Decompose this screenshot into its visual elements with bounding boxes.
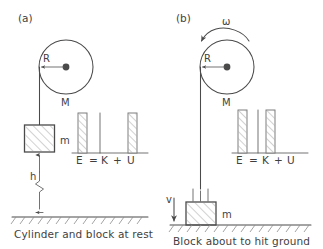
rotation-arrow-b: [202, 28, 250, 41]
energy-symbol-E-a: E: [76, 154, 83, 166]
panel-b: (b) ω R M: [166, 12, 311, 247]
energy-symbol-U-a: U: [127, 154, 135, 166]
energy-symbol-eq-a: =: [89, 154, 98, 166]
energy-symbol-eq-b: =: [249, 154, 258, 166]
pulley-mass-label-b: M: [222, 97, 231, 108]
physics-figure: (a) R M m h: [0, 0, 323, 249]
panel-a: (a) R M m h: [11, 12, 153, 240]
pulley-b: R M: [200, 40, 254, 108]
block-b: m: [186, 202, 232, 225]
panel-b-caption: Block about to hit ground: [173, 235, 310, 247]
rotation-label-b: ω: [222, 16, 230, 27]
height-label-a: h: [30, 171, 36, 182]
block-mass-label-b: m: [222, 209, 232, 220]
rotation-indicator-b: ω: [202, 16, 250, 41]
pulley-a: R M: [39, 40, 93, 108]
energy-symbol-K-b: K: [262, 154, 270, 166]
energy-symbol-K-a: K: [101, 154, 109, 166]
energy-chart-b: E = K + U: [232, 110, 308, 166]
energy-symbol-E-b: E: [236, 154, 243, 166]
block-hatch-b: [187, 203, 215, 224]
radius-label-b: R: [204, 53, 211, 64]
energy-symbol-U-b: U: [287, 154, 295, 166]
pulley-mass-label-a: M: [61, 97, 70, 108]
energy-bar-E-hatch-a: [79, 114, 87, 153]
ground-a: [11, 217, 148, 224]
panel-a-caption: Cylinder and block at rest: [14, 228, 153, 240]
ground-hatch-a: [11, 217, 142, 224]
block-a: m: [25, 125, 70, 152]
panel-b-label: (b): [176, 12, 191, 24]
energy-symbol-plus-a: +: [113, 154, 122, 166]
radius-label-a: R: [43, 53, 50, 64]
panel-a-label: (a): [18, 12, 33, 24]
energy-symbol-plus-b: +: [274, 154, 283, 166]
ground-hatch-b: [169, 225, 309, 232]
height-dimension-a: h: [30, 155, 44, 213]
motion-lines-b: [193, 189, 208, 201]
block-hatch-a: [26, 126, 54, 151]
energy-bar-K-hatch-b: [267, 111, 275, 153]
velocity-indicator-b: v: [166, 194, 174, 221]
energy-bar-U-hatch-a: [129, 114, 137, 153]
velocity-label-b: v: [166, 194, 172, 205]
ground-b: [169, 225, 311, 232]
height-break-line-a: [36, 172, 44, 209]
energy-bar-E-hatch-b: [239, 111, 247, 153]
energy-chart-a: E = K + U: [72, 113, 148, 166]
block-mass-label-a: m: [60, 135, 70, 146]
figure-canvas: (a) R M m h: [0, 0, 323, 249]
